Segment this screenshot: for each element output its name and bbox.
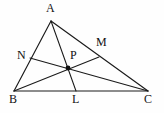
point-label-B: B [9, 93, 17, 105]
point-marker-P [66, 66, 71, 71]
point-label-P: P [70, 49, 77, 61]
cevian-CN [30, 58, 148, 91]
geometry-figure: A B C N M L P [0, 0, 164, 113]
point-label-L: L [72, 93, 79, 105]
point-label-A: A [46, 2, 55, 14]
point-label-M: M [96, 36, 107, 48]
point-label-C: C [144, 93, 152, 105]
point-label-N: N [17, 49, 26, 61]
segment-AC [51, 21, 148, 91]
